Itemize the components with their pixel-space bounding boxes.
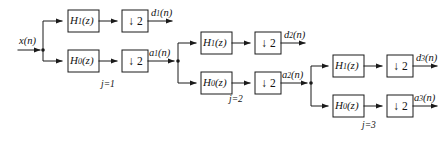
- a3-arg: (n): [423, 92, 435, 103]
- down-arrow-icon: ↓: [128, 54, 134, 68]
- h0-arg-glyph: (z): [347, 99, 359, 111]
- h1-arg-glyph: (z): [82, 14, 94, 26]
- h1-main-glyph: H: [70, 14, 78, 26]
- h0-main-glyph: H: [203, 76, 211, 88]
- signal-label-a1: a1(n): [149, 48, 170, 59]
- down-factor: 2: [137, 15, 143, 27]
- signal-label-a2: a2(n): [282, 70, 303, 81]
- down-factor: 2: [402, 60, 408, 72]
- wire-input-to-h0-s1: [43, 50, 62, 61]
- block-label-highpass-stage-3: H1(z): [335, 60, 359, 71]
- signal-label-d1: d1(n): [151, 8, 172, 19]
- down-factor: 2: [270, 37, 276, 49]
- a2-arg: (n): [291, 69, 303, 80]
- block-label-highpass-stage-2: H1(z): [203, 37, 227, 48]
- stage-label-3: j=3: [362, 121, 376, 131]
- input-signal-arg: (n): [24, 35, 36, 46]
- h1-arg-glyph: (z): [215, 36, 227, 48]
- wire-a2-to-h0-s3: [311, 83, 328, 106]
- down-factor: 2: [137, 55, 143, 67]
- down-arrow-icon: ↓: [261, 76, 267, 90]
- signal-label-d2: d2(n): [284, 30, 305, 41]
- down-arrow-icon: ↓: [393, 99, 399, 113]
- input-signal-label: x(n): [19, 36, 36, 47]
- block-label-lowpass-stage-1: H0(z): [70, 55, 94, 66]
- block-label-downsampler-detail-stage-1: ↓ 2: [128, 15, 143, 28]
- d1-arg: (n): [160, 7, 172, 18]
- signal-label-d3: d3(n): [416, 53, 437, 64]
- block-label-downsampler-approx-stage-1: ↓ 2: [128, 55, 143, 68]
- h0-arg-glyph: (z): [215, 76, 227, 88]
- wire-a2-to-h1-s3: [311, 66, 328, 83]
- down-arrow-icon: ↓: [393, 59, 399, 73]
- a1-arg: (n): [158, 47, 170, 58]
- signal-label-a3: a3(n): [414, 93, 435, 104]
- wire-a1-to-h1-s2: [178, 43, 196, 61]
- stage-label-2: j=2: [229, 95, 243, 105]
- block-label-downsampler-approx-stage-2: ↓ 2: [261, 77, 276, 90]
- h0-main-glyph: H: [70, 54, 78, 66]
- block-label-downsampler-detail-stage-2: ↓ 2: [261, 37, 276, 50]
- down-arrow-icon: ↓: [128, 14, 134, 28]
- down-arrow-icon: ↓: [261, 36, 267, 50]
- block-label-downsampler-detail-stage-3: ↓ 2: [393, 60, 408, 73]
- stage-2-eq: =2: [232, 94, 243, 104]
- block-label-lowpass-stage-2: H0(z): [203, 77, 227, 88]
- d3-arg: (n): [425, 52, 437, 63]
- h0-main-glyph: H: [335, 99, 343, 111]
- h1-main-glyph: H: [203, 36, 211, 48]
- filter-bank-diagram: x(n) H1(z) H0(z) ↓ 2 ↓ 2 d1(n) a1(n) j=1…: [0, 0, 447, 144]
- stage-label-1: j=1: [101, 80, 115, 90]
- block-label-lowpass-stage-3: H0(z): [335, 100, 359, 111]
- h1-main-glyph: H: [335, 59, 343, 71]
- h0-arg-glyph: (z): [82, 54, 94, 66]
- wire-input-to-h1-s1: [43, 21, 62, 50]
- block-label-highpass-stage-1: H1(z): [70, 15, 94, 26]
- down-factor: 2: [402, 100, 408, 112]
- h1-arg-glyph: (z): [347, 59, 359, 71]
- stage-1-eq: =1: [104, 79, 115, 89]
- down-factor: 2: [270, 77, 276, 89]
- block-label-downsampler-approx-stage-3: ↓ 2: [393, 100, 408, 113]
- d2-arg: (n): [293, 29, 305, 40]
- diagram-canvas: [0, 0, 447, 144]
- wire-a1-to-h0-s2: [178, 61, 196, 83]
- stage-3-eq: =3: [365, 120, 376, 130]
